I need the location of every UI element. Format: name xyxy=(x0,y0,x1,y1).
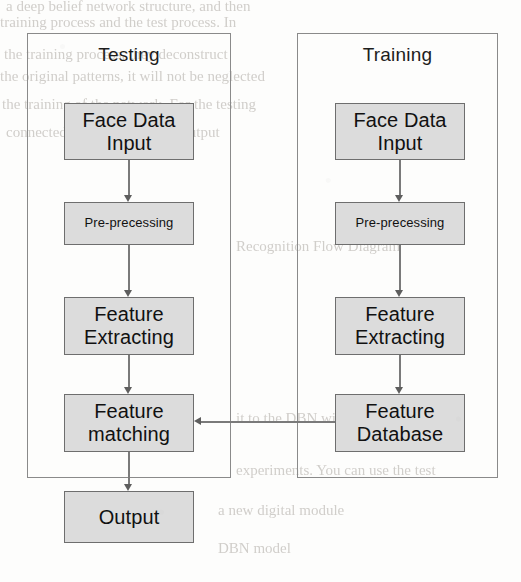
node-label: Feature Extracting xyxy=(84,303,174,349)
testing-group-title: Testing xyxy=(27,44,231,66)
node-label: Face Data Input xyxy=(353,109,446,155)
connector-test-extract-to-match xyxy=(128,355,130,387)
node-train-face-data-input[interactable]: Face Data Input xyxy=(335,103,465,160)
node-label: Feature Database xyxy=(357,400,443,446)
bleed-text-line: DBN model xyxy=(218,540,291,557)
connector-train-input-to-preprocess xyxy=(399,160,401,195)
node-train-pre-precessing[interactable]: Pre-precessing xyxy=(335,202,465,245)
node-output[interactable]: Output xyxy=(64,491,194,543)
arrowhead-down-icon xyxy=(124,195,132,202)
connector-test-input-to-preprocess xyxy=(128,160,130,195)
connector-test-preprocess-to-extract xyxy=(128,245,130,290)
node-test-feature-matching[interactable]: Feature matching xyxy=(64,394,194,452)
bleed-text-line: training process and the test process. I… xyxy=(0,14,236,31)
node-label: Face Data Input xyxy=(82,109,175,155)
connector-train-preprocess-to-extract xyxy=(399,245,401,290)
arrowhead-left-icon xyxy=(194,417,201,425)
node-label: Feature matching xyxy=(88,400,170,446)
node-train-feature-extracting[interactable]: Feature Extracting xyxy=(335,297,465,355)
node-label: Feature Extracting xyxy=(355,303,445,349)
arrowhead-down-icon xyxy=(395,290,403,297)
node-label: Pre-precessing xyxy=(85,216,174,231)
node-test-pre-precessing[interactable]: Pre-precessing xyxy=(64,202,194,245)
connector-database-to-matching xyxy=(201,421,335,423)
node-train-feature-database[interactable]: Feature Database xyxy=(335,394,465,452)
node-label: Output xyxy=(99,506,160,529)
node-test-face-data-input[interactable]: Face Data Input xyxy=(64,103,194,160)
arrowhead-down-icon xyxy=(124,484,132,491)
arrowhead-down-icon xyxy=(395,195,403,202)
connector-test-match-to-output xyxy=(128,452,130,484)
arrowhead-down-icon xyxy=(124,290,132,297)
node-label: Pre-precessing xyxy=(356,216,445,231)
bleed-text-line: a deep belief network structure, and the… xyxy=(6,0,250,15)
arrowhead-down-icon xyxy=(395,387,403,394)
bleed-text-line: a new digital module xyxy=(218,502,344,519)
node-test-feature-extracting[interactable]: Feature Extracting xyxy=(64,297,194,355)
arrowhead-down-icon xyxy=(124,387,132,394)
connector-train-extract-to-database xyxy=(399,355,401,387)
training-group-title: Training xyxy=(297,44,498,66)
